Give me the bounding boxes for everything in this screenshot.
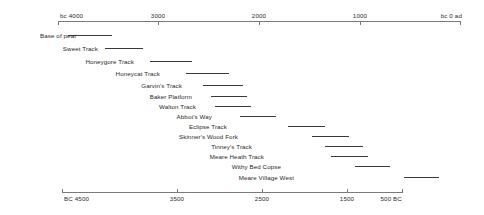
range-bar: [288, 126, 325, 127]
bottom-axis-tick: [347, 189, 348, 193]
bottom-axis-tick: [62, 189, 63, 193]
timeline-row: Sweet Track: [0, 43, 484, 54]
range-bar: [68, 35, 112, 36]
range-bar: [355, 166, 390, 167]
bottom-axis-label: 2500: [255, 195, 269, 203]
bottom-axis-label-start: BC 4500: [64, 195, 89, 203]
bottom-axis-tick: [262, 189, 263, 193]
range-bar: [215, 106, 251, 107]
row-label: Withy Bed Copse: [232, 161, 281, 172]
bottom-axis-label: 1500: [340, 195, 354, 203]
row-label: Garvin's Track: [141, 80, 182, 91]
timeline-row: Garvin's Track: [0, 80, 484, 91]
timeline-row: Honeygore Track: [0, 56, 484, 67]
trackway-chronology-chart: bc 4000 3000 2000 1000 bc 0 ad Base of p…: [0, 0, 484, 215]
range-bar: [240, 116, 276, 117]
range-bar: [404, 177, 439, 178]
range-bar: [312, 136, 349, 137]
bottom-axis-tick: [177, 189, 178, 193]
range-bar: [211, 96, 247, 97]
timeline-row: Honeycat Track: [0, 68, 484, 79]
bottom-axis-line: [62, 192, 402, 193]
bottom-axis-label: 3500: [170, 195, 184, 203]
range-bar: [150, 61, 192, 62]
bottom-axis: BC 4500 3500 2500 1500 500 BC: [0, 188, 484, 208]
range-bar: [203, 85, 243, 86]
range-bar: [186, 73, 229, 74]
row-label: Meare Village West: [239, 172, 294, 183]
timeline-row: Withy Bed Copse: [0, 161, 484, 172]
bottom-axis-tick: [402, 189, 403, 193]
row-label: Honeygore Track: [85, 56, 134, 67]
bottom-axis-label-end: 500 BC: [380, 195, 402, 203]
timeline-rows: Base of peatSweet TrackHoneygore TrackHo…: [0, 0, 484, 215]
range-bar: [105, 48, 143, 49]
row-label: Honeycat Track: [116, 68, 160, 79]
timeline-row: Base of peat: [0, 30, 484, 41]
range-bar: [325, 146, 363, 147]
timeline-row: Meare Village West: [0, 172, 484, 183]
range-bar: [331, 156, 368, 157]
row-label: Sweet Track: [63, 43, 98, 54]
